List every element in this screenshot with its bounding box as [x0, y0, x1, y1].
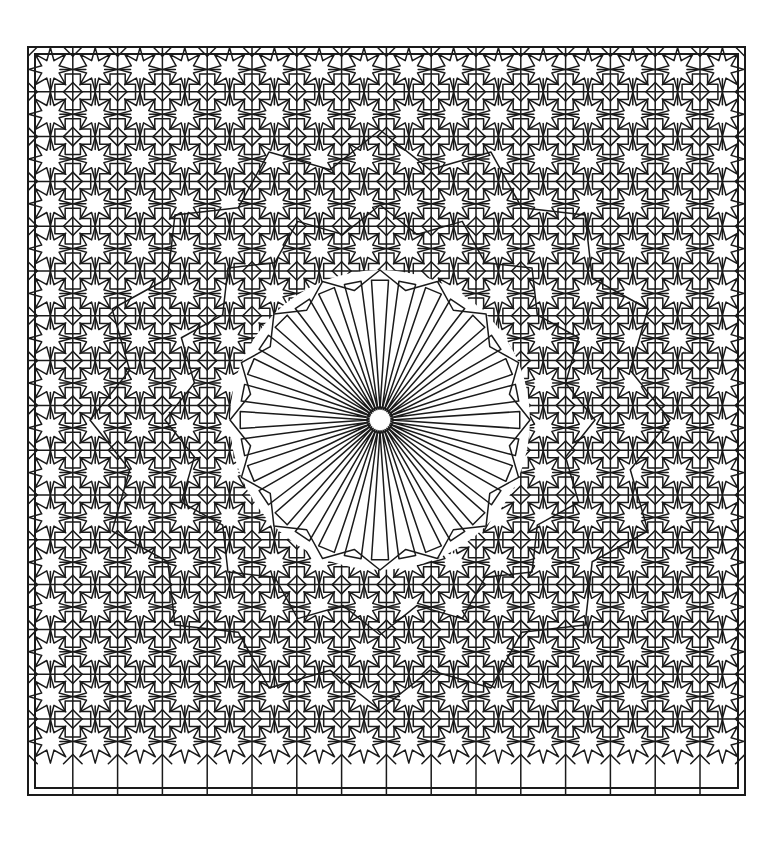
pattern-canvas: [0, 0, 760, 841]
artboard: [0, 0, 760, 841]
